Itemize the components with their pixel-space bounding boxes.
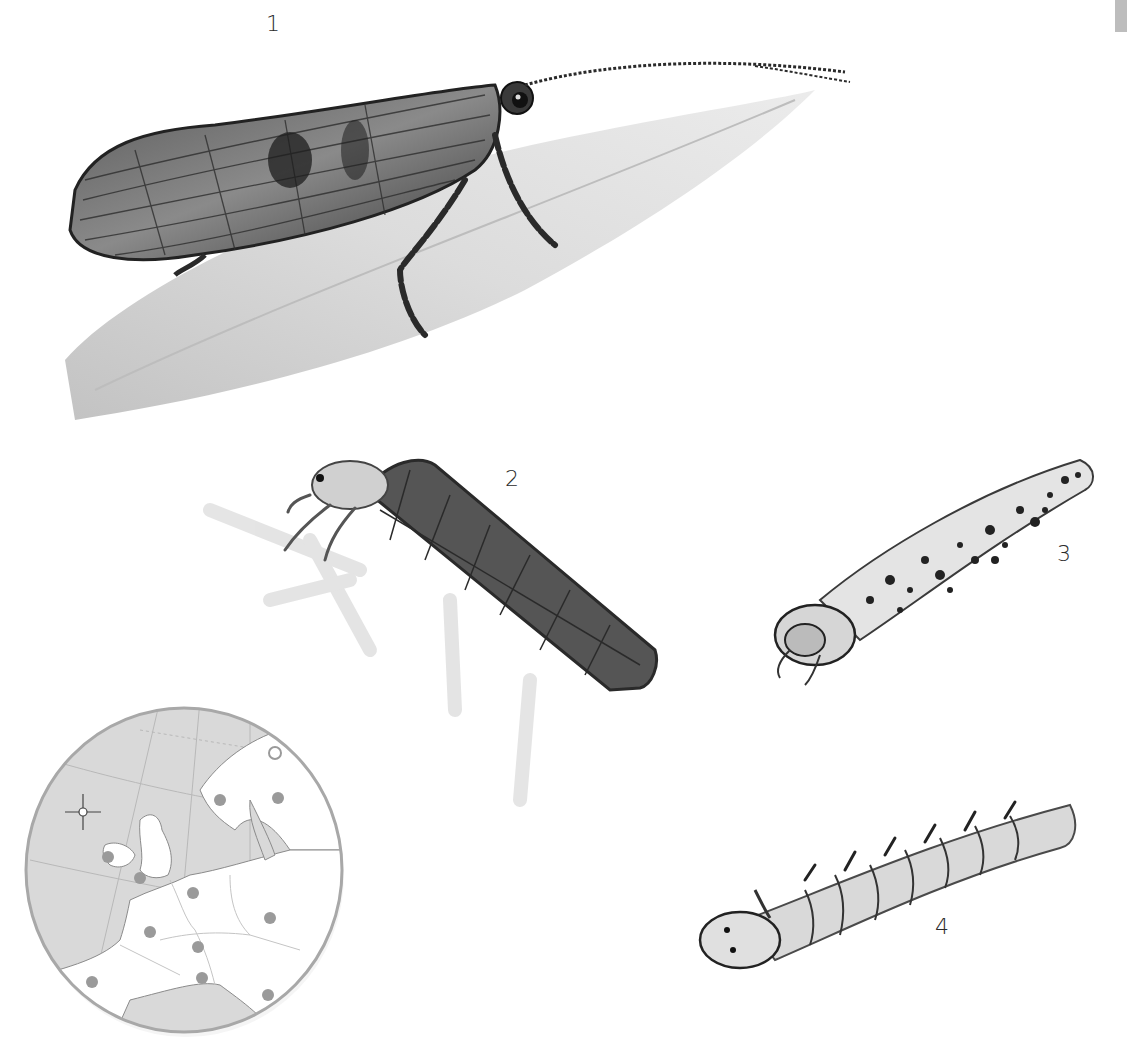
dot-germany: [187, 887, 199, 899]
dot-ireland: [102, 851, 114, 863]
figure-4-free-larva: [685, 770, 1085, 970]
adult-caddisfly-illustration: [55, 60, 855, 440]
page-edge-tab: [1115, 0, 1127, 32]
figure-2-label: 2: [505, 468, 519, 490]
dot-balkans: [262, 989, 274, 1001]
figure-1-adult: [55, 60, 855, 440]
dot-scandinavia-west: [214, 794, 226, 806]
distribution-map: [20, 700, 350, 1045]
dot-alps: [192, 941, 204, 953]
figure-3-label: 3: [1057, 543, 1071, 565]
figure-1-label: 1: [266, 13, 280, 35]
dot-eastern-europe: [264, 912, 276, 924]
dot-iberia: [86, 976, 98, 988]
dot-italy: [196, 972, 208, 984]
figure-3-sand-case-larva: [760, 450, 1100, 690]
dot-finland: [272, 792, 284, 804]
open-marker-north: [269, 747, 281, 759]
dot-france: [144, 926, 156, 938]
sand-case-larva-illustration: [760, 450, 1100, 690]
europe-map-globe: [20, 700, 350, 1045]
dot-great-britain: [134, 872, 146, 884]
figure-4-label: 4: [935, 916, 949, 938]
free-larva-illustration: [685, 770, 1085, 970]
